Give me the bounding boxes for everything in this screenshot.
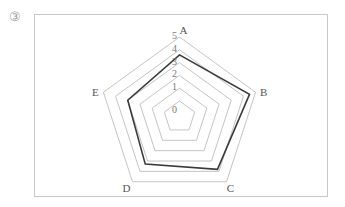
radial-tick-label: 0 (172, 104, 177, 115)
radial-tick-label: 1 (172, 81, 177, 92)
grid-ring-1 (152, 88, 207, 140)
grid-ring-0 (164, 101, 194, 130)
axis-label-a: A (180, 24, 188, 36)
radial-tick-label: 2 (172, 68, 177, 79)
data-series-polygon (128, 55, 250, 169)
axis-label-b: B (260, 86, 267, 98)
axis-label-d: D (123, 182, 131, 194)
grid-ring-3 (128, 63, 231, 161)
radial-tick-label: 5 (172, 30, 177, 41)
axis-label-c: C (227, 182, 234, 194)
grid-ring-5 (103, 37, 255, 182)
radial-tick-label: 3 (172, 56, 177, 67)
grid-ring-2 (140, 75, 219, 150)
axis-label-e: E (92, 86, 99, 98)
radar-chart: 012345 ABCDE (0, 0, 345, 207)
radar-grid (103, 37, 255, 182)
radial-tick-labels: 012345 (172, 30, 177, 115)
radar-series (128, 55, 250, 169)
radial-tick-label: 4 (172, 43, 177, 54)
